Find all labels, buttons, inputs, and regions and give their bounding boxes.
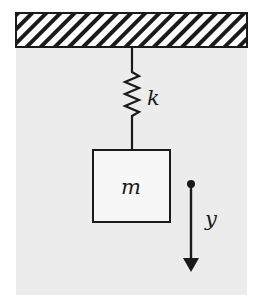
spring-mass-diagram: k m y (0, 0, 254, 305)
displacement-label: y (204, 207, 218, 231)
ceiling-support (16, 13, 247, 47)
mass-label: m (121, 175, 141, 199)
spring-constant-label: k (147, 86, 160, 110)
